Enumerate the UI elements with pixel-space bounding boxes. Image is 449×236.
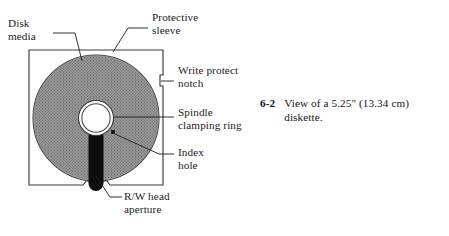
- rw-head-aperture: [89, 129, 104, 191]
- figure-caption-text: View of a 5.25" (13.34 cm) diskette.: [284, 97, 438, 124]
- label-protective-sleeve: Protective sleeve: [152, 11, 236, 37]
- label-spindle-clamping-ring: Spindle clamping ring: [178, 106, 264, 132]
- label-write-protect-notch: Write protect notch: [178, 64, 264, 90]
- leader-protective-sleeve: [113, 28, 148, 52]
- spindle-clamping-ring: [79, 101, 114, 136]
- figure-caption-number: 6-2: [260, 97, 275, 111]
- label-index-hole: Index hole: [178, 146, 242, 172]
- figure-caption: 6-2 View of a 5.25" (13.34 cm) diskette.: [260, 97, 438, 124]
- label-disk-media: Disk media: [8, 17, 68, 43]
- index-hole: [111, 130, 115, 134]
- label-rw-head-aperture: R/W head aperture: [124, 190, 198, 216]
- figure-6-2: Disk media Protective sleeve Write prote…: [0, 0, 449, 236]
